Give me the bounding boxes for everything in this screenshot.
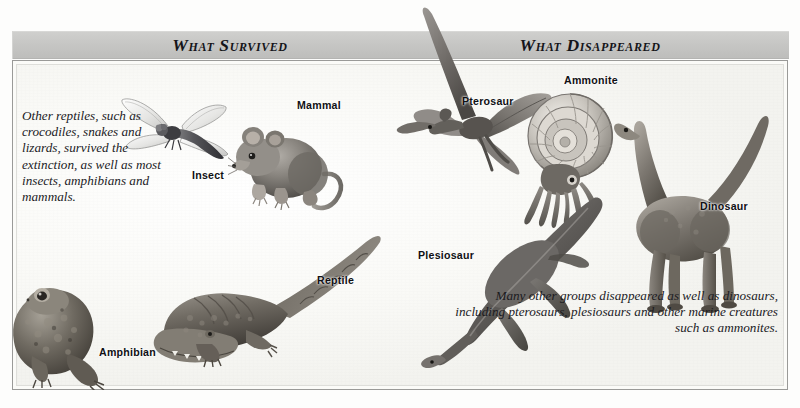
header-title-what-survived: What Survived (60, 33, 400, 57)
label-plesiosaur: Plesiosaur (418, 249, 474, 261)
crocodile-illustration (150, 218, 385, 368)
caption-what-survived: Other reptiles, such as crocodiles, snak… (22, 108, 172, 205)
label-ammonite: Ammonite (564, 74, 618, 86)
caption-what-disappeared: Many other groups disappeared as well as… (448, 288, 778, 337)
label-dinosaur: Dinosaur (700, 200, 748, 212)
figure-root: What Survived What Disappeared (0, 0, 800, 408)
label-amphibian: Amphibian (99, 346, 156, 358)
frog-illustration (8, 262, 133, 390)
label-mammal: Mammal (297, 99, 341, 111)
label-reptile: Reptile (317, 274, 354, 286)
plesiosaur-illustration (418, 196, 608, 376)
mouse-illustration (228, 112, 348, 222)
label-insect: Insect (192, 169, 224, 181)
